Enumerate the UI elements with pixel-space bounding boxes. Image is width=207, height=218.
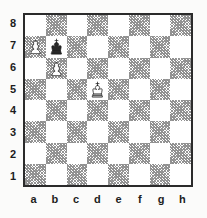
rank-label-4: 4 bbox=[5, 100, 21, 122]
board-square-h3[interactable] bbox=[170, 121, 191, 142]
board-square-f6[interactable] bbox=[129, 58, 150, 79]
chess-board-grid bbox=[25, 15, 191, 185]
board-square-g7[interactable] bbox=[150, 36, 171, 57]
board-square-d8[interactable] bbox=[87, 15, 108, 36]
board-square-g6[interactable] bbox=[150, 58, 171, 79]
board-square-a2[interactable] bbox=[25, 143, 46, 164]
board-square-c2[interactable] bbox=[67, 143, 88, 164]
board-square-c3[interactable] bbox=[67, 121, 88, 142]
board-square-b3[interactable] bbox=[46, 121, 67, 142]
board-square-g8[interactable] bbox=[150, 15, 171, 36]
board-square-h2[interactable] bbox=[170, 143, 191, 164]
white-pawn-icon bbox=[46, 58, 67, 79]
board-square-c4[interactable] bbox=[67, 100, 88, 121]
board-square-f3[interactable] bbox=[129, 121, 150, 142]
board-square-b7[interactable] bbox=[46, 36, 67, 57]
file-label-e: e bbox=[108, 190, 129, 208]
board-square-e1[interactable] bbox=[108, 164, 129, 185]
board-square-h6[interactable] bbox=[170, 58, 191, 79]
white-pawn-icon bbox=[25, 36, 46, 57]
board-square-b4[interactable] bbox=[46, 100, 67, 121]
board-square-f4[interactable] bbox=[129, 100, 150, 121]
board-square-f5[interactable] bbox=[129, 79, 150, 100]
rank-label-5: 5 bbox=[5, 78, 21, 100]
chess-board[interactable] bbox=[23, 13, 193, 187]
board-square-f1[interactable] bbox=[129, 164, 150, 185]
rank-label-2: 2 bbox=[5, 144, 21, 166]
chess-diagram-screenshot: 87654321 abcdefgh bbox=[0, 0, 207, 218]
board-square-h5[interactable] bbox=[170, 79, 191, 100]
board-square-e7[interactable] bbox=[108, 36, 129, 57]
rank-label-6: 6 bbox=[5, 57, 21, 79]
board-square-c7[interactable] bbox=[67, 36, 88, 57]
file-label-g: g bbox=[151, 190, 172, 208]
file-label-b: b bbox=[44, 190, 65, 208]
board-square-h7[interactable] bbox=[170, 36, 191, 57]
white-king-icon bbox=[87, 79, 108, 100]
file-label-h: h bbox=[172, 190, 193, 208]
board-square-d5[interactable] bbox=[87, 79, 108, 100]
board-square-d7[interactable] bbox=[87, 36, 108, 57]
board-square-d3[interactable] bbox=[87, 121, 108, 142]
board-square-h8[interactable] bbox=[170, 15, 191, 36]
board-square-d1[interactable] bbox=[87, 164, 108, 185]
file-label-a: a bbox=[23, 190, 44, 208]
file-label-d: d bbox=[87, 190, 108, 208]
board-square-b2[interactable] bbox=[46, 143, 67, 164]
board-square-e3[interactable] bbox=[108, 121, 129, 142]
board-square-e5[interactable] bbox=[108, 79, 129, 100]
board-square-c8[interactable] bbox=[67, 15, 88, 36]
board-square-d4[interactable] bbox=[87, 100, 108, 121]
file-label-c: c bbox=[66, 190, 87, 208]
board-square-g4[interactable] bbox=[150, 100, 171, 121]
board-square-a1[interactable] bbox=[25, 164, 46, 185]
rank-label-7: 7 bbox=[5, 35, 21, 57]
rank-label-8: 8 bbox=[5, 13, 21, 35]
board-square-e2[interactable] bbox=[108, 143, 129, 164]
board-square-g1[interactable] bbox=[150, 164, 171, 185]
board-square-d2[interactable] bbox=[87, 143, 108, 164]
board-square-c1[interactable] bbox=[67, 164, 88, 185]
board-square-g2[interactable] bbox=[150, 143, 171, 164]
board-square-c6[interactable] bbox=[67, 58, 88, 79]
board-square-f2[interactable] bbox=[129, 143, 150, 164]
board-square-a4[interactable] bbox=[25, 100, 46, 121]
board-square-f7[interactable] bbox=[129, 36, 150, 57]
file-label-f: f bbox=[129, 190, 150, 208]
board-square-b6[interactable] bbox=[46, 58, 67, 79]
board-square-a3[interactable] bbox=[25, 121, 46, 142]
board-square-g3[interactable] bbox=[150, 121, 171, 142]
board-square-h1[interactable] bbox=[170, 164, 191, 185]
board-square-a6[interactable] bbox=[25, 58, 46, 79]
black-king-icon bbox=[46, 36, 67, 57]
board-square-f8[interactable] bbox=[129, 15, 150, 36]
board-square-b1[interactable] bbox=[46, 164, 67, 185]
board-square-e8[interactable] bbox=[108, 15, 129, 36]
rank-label-1: 1 bbox=[5, 165, 21, 187]
board-square-b5[interactable] bbox=[46, 79, 67, 100]
file-label-row: abcdefgh bbox=[23, 190, 193, 208]
board-square-a5[interactable] bbox=[25, 79, 46, 100]
rank-label-3: 3 bbox=[5, 122, 21, 144]
board-square-b8[interactable] bbox=[46, 15, 67, 36]
board-square-a7[interactable] bbox=[25, 36, 46, 57]
board-square-g5[interactable] bbox=[150, 79, 171, 100]
board-square-c5[interactable] bbox=[67, 79, 88, 100]
rank-label-column: 87654321 bbox=[5, 13, 21, 187]
board-square-h4[interactable] bbox=[170, 100, 191, 121]
board-square-a8[interactable] bbox=[25, 15, 46, 36]
board-square-e4[interactable] bbox=[108, 100, 129, 121]
board-square-e6[interactable] bbox=[108, 58, 129, 79]
board-square-d6[interactable] bbox=[87, 58, 108, 79]
